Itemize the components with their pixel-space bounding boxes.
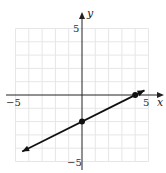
x-axis-label: x: [157, 96, 164, 109]
data-point: [132, 92, 138, 98]
data-series: [22, 90, 144, 151]
y-axis-arrow-icon: [79, 12, 85, 19]
y-axis-label: y: [86, 7, 94, 20]
x-tick-5: 5: [143, 97, 149, 108]
y-tick-5: 5: [73, 23, 79, 34]
coordinate-plane: −5 5 5 −5 x y: [0, 0, 166, 173]
y-tick-neg5: −5: [67, 157, 82, 168]
x-tick-neg5: −5: [6, 97, 21, 108]
data-point: [79, 119, 85, 125]
y-axis: [79, 12, 85, 170]
